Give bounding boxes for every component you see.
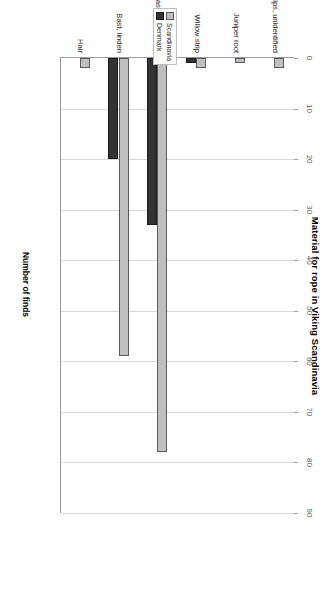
- axis-tick: [294, 412, 298, 413]
- category-row: Wood strips, unidentified: [255, 58, 294, 513]
- bar-scandinavia: [235, 58, 245, 63]
- gridline: [61, 513, 294, 514]
- legend-label: Scandinavia: [167, 23, 174, 61]
- axis-tick-label: 0: [305, 56, 314, 60]
- plot-area: 0102030405060708090Wood strips, unidenti…: [60, 57, 294, 513]
- bar-scandinavia: [274, 58, 284, 68]
- legend-item: Denmark: [156, 12, 164, 61]
- category-row: Bast, linden: [100, 58, 139, 513]
- bar-scandinavia: [157, 58, 167, 452]
- axis-tick: [294, 109, 298, 110]
- category-label: Willow strip: [192, 15, 201, 53]
- value-axis-title: Number of finds: [21, 57, 31, 512]
- bar-scandinavia: [119, 58, 129, 356]
- axis-tick-label: 60: [305, 357, 314, 366]
- legend-swatch-icon: [166, 12, 174, 20]
- chart-canvas: Material for rope in Viking Scandinavia …: [0, 0, 327, 612]
- bar-denmark: [147, 58, 157, 225]
- axis-tick: [294, 462, 298, 463]
- bar-scandinavia: [196, 58, 206, 68]
- axis-tick-label: 20: [305, 155, 314, 164]
- category-row: Willow strip: [178, 58, 217, 513]
- axis-tick: [294, 311, 298, 312]
- category-row: Hair: [61, 58, 100, 513]
- axis-tick: [294, 513, 298, 514]
- category-label: Hair: [76, 39, 85, 53]
- axis-tick-label: 40: [305, 256, 314, 265]
- category-row: Juniper root: [216, 58, 255, 513]
- bar-denmark: [186, 58, 196, 63]
- category-label: Bast, linden: [115, 13, 124, 53]
- axis-tick: [294, 58, 298, 59]
- legend-item: Scandinavia: [166, 12, 174, 61]
- axis-tick-label: 30: [305, 205, 314, 214]
- axis-tick: [294, 260, 298, 261]
- chart-legend: ScandinaviaDenmark: [153, 8, 177, 65]
- axis-tick: [294, 361, 298, 362]
- axis-tick-label: 90: [305, 509, 314, 518]
- axis-tick-label: 50: [305, 306, 314, 315]
- bar-scandinavia: [80, 58, 90, 68]
- axis-tick: [294, 159, 298, 160]
- axis-tick-label: 10: [305, 104, 314, 113]
- rotated-chart-figure: Material for rope in Viking Scandinavia …: [0, 0, 327, 612]
- axis-tick-label: 80: [305, 458, 314, 467]
- legend-swatch-icon: [156, 12, 164, 20]
- category-label: Juniper root: [231, 13, 240, 53]
- legend-label: Denmark: [157, 23, 164, 51]
- axis-tick: [294, 210, 298, 211]
- category-row: Bast, unidentified: [139, 58, 178, 513]
- bar-denmark: [108, 58, 118, 159]
- axis-tick-label: 70: [305, 407, 314, 416]
- category-label: Wood strips, unidentified: [270, 0, 279, 53]
